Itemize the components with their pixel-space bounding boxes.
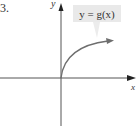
x-axis-arrow-icon (127, 75, 136, 81)
graph-figure: 3. y x y = g(x) (0, 0, 136, 126)
curve-arrow-icon (106, 38, 114, 44)
y-axis-label: y (51, 0, 55, 9)
curve-g (61, 41, 108, 78)
y-axis-arrow-icon (59, 3, 64, 11)
callout-pointer (93, 22, 100, 38)
curve-label: y = g(x) (73, 5, 121, 22)
x-axis-label: x (131, 82, 135, 92)
